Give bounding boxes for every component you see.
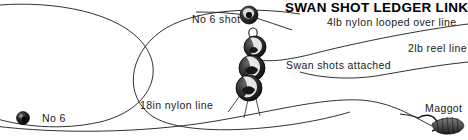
maggot-bait-icon (400, 114, 464, 134)
diagram-title: SWAN SHOT LEDGER LINK (285, 0, 468, 15)
label-nylon-looped-over-line: 4lb nylon looped over line (327, 16, 456, 28)
swan-shot-3-icon (236, 75, 262, 101)
no-6-shot-lower-icon (17, 112, 30, 125)
swan-shot-ledger-link-diagram: SWAN SHOT LEDGER LINK No 6 shot 4lb nylo… (0, 0, 468, 140)
nylon-line-loop-outer (0, 4, 153, 127)
label-maggot: Maggot (425, 102, 462, 114)
label-no-6-shot: No 6 shot (192, 13, 241, 25)
label-no-6: No 6 (42, 112, 66, 124)
swan-shot-1-icon (244, 36, 266, 58)
label-2lb-reel-line: 2lb reel line (408, 42, 467, 54)
label-18in-nylon-line: 18in nylon line (140, 99, 213, 111)
no-6-shot-upper-icon (240, 6, 258, 24)
label-swan-shots-attached: Swan shots attached (286, 59, 391, 71)
